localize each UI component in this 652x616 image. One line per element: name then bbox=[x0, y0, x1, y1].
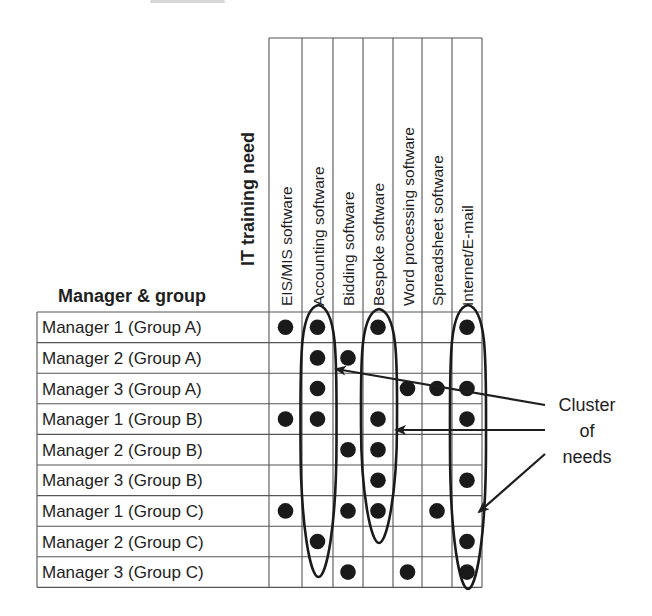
row-header-title: Manager & group bbox=[58, 286, 206, 306]
need-dot bbox=[340, 442, 356, 458]
column-header-label: EIS/MIS software bbox=[278, 186, 295, 306]
need-dot bbox=[310, 534, 326, 550]
need-dot bbox=[370, 411, 386, 427]
column-header-title: IT training need bbox=[238, 132, 258, 266]
row-labels: Manager 1 (Group A)Manager 2 (Group A)Ma… bbox=[42, 318, 204, 582]
need-dot bbox=[278, 503, 294, 519]
need-dot bbox=[340, 350, 356, 366]
need-dot bbox=[459, 381, 475, 397]
need-dot bbox=[278, 411, 294, 427]
need-dot bbox=[459, 411, 475, 427]
need-dot bbox=[340, 564, 356, 580]
row-label: Manager 1 (Group C) bbox=[42, 502, 204, 521]
need-dot bbox=[310, 381, 326, 397]
row-label: Manager 2 (Group C) bbox=[42, 533, 204, 552]
row-label: Manager 3 (Group C) bbox=[42, 563, 204, 582]
arrow-to-accounting-cluster bbox=[336, 369, 545, 405]
need-dot bbox=[429, 503, 445, 519]
need-dot bbox=[340, 503, 356, 519]
row-label: Manager 2 (Group B) bbox=[42, 441, 203, 460]
need-dot bbox=[310, 320, 326, 336]
cluster-annotation: Cluster of needs bbox=[558, 395, 615, 467]
need-dot bbox=[278, 320, 294, 336]
need-dot bbox=[429, 381, 445, 397]
row-label: Manager 3 (Group A) bbox=[42, 380, 202, 399]
column-headers: EIS/MIS softwareAccounting softwareBiddi… bbox=[278, 127, 477, 306]
need-dot bbox=[370, 442, 386, 458]
row-label: Manager 1 (Group B) bbox=[42, 410, 203, 429]
need-dot bbox=[370, 320, 386, 336]
column-header-label: Word processing software bbox=[400, 127, 417, 306]
column-header-label: Internet/E-mail bbox=[459, 205, 476, 306]
need-dot bbox=[370, 503, 386, 519]
column-header-label: Spreadsheet software bbox=[429, 155, 446, 306]
row-label: Manager 3 (Group B) bbox=[42, 471, 203, 490]
need-dot bbox=[370, 473, 386, 489]
row-label: Manager 1 (Group A) bbox=[42, 318, 202, 337]
annotation-line-2: of bbox=[579, 421, 595, 441]
need-dot bbox=[310, 411, 326, 427]
training-needs-matrix: Manager & group IT training need EIS/MIS… bbox=[0, 0, 652, 616]
need-dot bbox=[459, 473, 475, 489]
need-dot bbox=[459, 320, 475, 336]
need-dot bbox=[310, 350, 326, 366]
annotation-line-1: Cluster bbox=[558, 395, 615, 415]
need-dot bbox=[459, 534, 475, 550]
row-label: Manager 2 (Group A) bbox=[42, 349, 202, 368]
arrow-to-internet-cluster bbox=[479, 454, 545, 512]
column-header-label: Accounting software bbox=[310, 166, 327, 306]
column-header-label: Bespoke software bbox=[370, 183, 387, 306]
annotation-line-3: needs bbox=[562, 447, 611, 467]
need-dot bbox=[400, 564, 416, 580]
column-header-label: Bidding software bbox=[340, 191, 357, 306]
